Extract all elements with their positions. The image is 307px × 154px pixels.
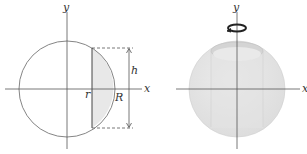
y-axis-label: y [62, 1, 70, 14]
y-axis-label-right: y [232, 1, 240, 14]
inner-radius-label: r [85, 88, 91, 101]
rotation-arrow-icon [227, 25, 246, 33]
x-axis-label: x [144, 82, 151, 95]
diagram-canvas: h x y r R x y [0, 0, 307, 154]
outer-radius-label: R [114, 91, 123, 104]
right-figure: x y [176, 1, 307, 149]
height-label: h [131, 64, 138, 77]
x-axis-label-right: x [302, 82, 307, 95]
left-figure: h x y r R [5, 1, 151, 149]
shaded-region [92, 48, 113, 128]
